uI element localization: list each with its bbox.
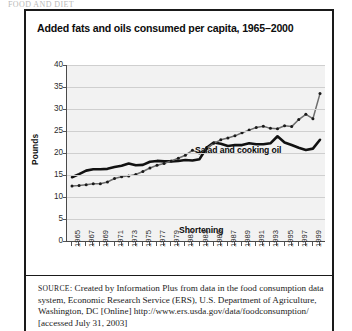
data-point xyxy=(233,134,236,137)
data-point xyxy=(141,170,144,173)
x-axis-tick-label: 1981 xyxy=(187,230,195,247)
gridline xyxy=(67,197,325,198)
x-axis-labels: 1965196719691971197319751977197919811983… xyxy=(66,247,325,277)
data-point xyxy=(78,184,81,187)
data-point xyxy=(156,164,159,167)
source-text: : Created by Information Plus from data … xyxy=(38,283,324,328)
x-axis-tick-mark xyxy=(298,242,299,246)
data-point xyxy=(290,125,293,128)
y-axis-tick-mark xyxy=(63,131,66,132)
data-point xyxy=(99,182,102,185)
data-point xyxy=(113,177,116,180)
source-note: SOURCE: Created by Information Plus from… xyxy=(38,283,326,329)
y-axis-label: Pounds xyxy=(30,134,40,165)
data-point xyxy=(269,127,272,130)
data-point xyxy=(226,137,229,140)
figure-box: Added fats and oils consumed per capita,… xyxy=(24,9,334,331)
chart-area: Pounds 0510152025303540 Salad and cookin… xyxy=(31,47,331,269)
y-axis-tick-mark xyxy=(63,109,66,110)
y-axis-tick-mark xyxy=(63,87,66,88)
x-axis-tick-label: 1973 xyxy=(131,230,139,247)
data-point xyxy=(311,117,314,120)
x-axis-tick-label: 1989 xyxy=(244,230,252,247)
data-point xyxy=(184,154,187,157)
data-point xyxy=(304,113,307,116)
gridline xyxy=(67,65,325,66)
data-point xyxy=(191,149,194,152)
x-axis-tick-mark xyxy=(85,242,86,246)
data-point xyxy=(71,185,74,188)
x-axis-tick-label: 1969 xyxy=(102,230,110,247)
x-axis-tick-label: 1991 xyxy=(258,230,266,247)
y-axis-tick-mark xyxy=(63,65,66,66)
x-axis-tick-label: 1995 xyxy=(287,230,295,247)
data-point xyxy=(276,127,279,130)
x-axis-tick-mark xyxy=(114,242,115,246)
source-label: SOURCE xyxy=(38,284,70,293)
y-axis-tick-label: 30 xyxy=(47,105,63,113)
series-line xyxy=(72,136,320,177)
data-point xyxy=(170,159,173,162)
y-axis-ticks: 0510152025303540 xyxy=(43,47,63,229)
y-axis-tick-label: 10 xyxy=(47,193,63,201)
data-point xyxy=(85,183,88,186)
data-point xyxy=(297,118,300,121)
x-axis-tick-label: 1987 xyxy=(230,230,238,247)
x-axis-tick-label: 1971 xyxy=(117,230,125,247)
y-axis-tick-mark xyxy=(63,153,66,154)
data-point xyxy=(148,166,151,169)
data-point xyxy=(106,181,109,184)
series-label-salad-oil: Salad and cooking oil xyxy=(195,145,281,155)
clipped-header-text: FOOD AND DIET xyxy=(8,0,208,7)
data-point xyxy=(163,162,166,165)
x-axis-tick-mark xyxy=(284,242,285,246)
y-axis-tick-label: 25 xyxy=(47,127,63,135)
x-axis-tick-label: 1977 xyxy=(159,230,167,247)
x-axis-tick-label: 1979 xyxy=(173,230,181,247)
x-axis-tick-label: 1983 xyxy=(202,230,210,247)
x-axis-tick-label: 1965 xyxy=(74,230,82,247)
y-axis-tick-label: 5 xyxy=(47,215,63,223)
x-axis-tick-label: 1975 xyxy=(145,230,153,247)
data-point xyxy=(319,92,322,95)
y-axis-tick-mark xyxy=(63,197,66,198)
data-point xyxy=(283,124,286,127)
x-axis-tick-mark xyxy=(128,242,129,246)
y-axis-tick-mark xyxy=(63,219,66,220)
data-point xyxy=(255,126,258,129)
y-axis-tick-label: 20 xyxy=(47,149,63,157)
y-axis-tick-label: 0 xyxy=(47,237,63,245)
y-axis-tick-label: 15 xyxy=(47,171,63,179)
x-axis-tick-mark xyxy=(241,242,242,246)
x-axis-tick-mark xyxy=(312,242,313,246)
y-axis-tick-mark xyxy=(63,241,66,242)
y-axis-tick-label: 40 xyxy=(47,61,63,69)
x-axis-tick-label: 1993 xyxy=(272,230,280,247)
x-axis-tick-mark xyxy=(142,242,143,246)
x-axis-tick-label: 1967 xyxy=(88,230,96,247)
data-point xyxy=(219,138,222,141)
x-axis-tick-mark xyxy=(156,242,157,246)
gridline xyxy=(67,87,325,88)
y-axis-tick-mark xyxy=(63,175,66,176)
source-divider xyxy=(26,275,332,276)
x-axis-tick-mark xyxy=(199,242,200,246)
x-axis-tick-label: 1999 xyxy=(315,230,323,247)
plot-area: Salad and cooking oil Shortening xyxy=(66,65,325,242)
data-point xyxy=(262,125,265,128)
x-axis-tick-label: 1997 xyxy=(301,230,309,247)
gridline xyxy=(67,219,325,220)
gridline xyxy=(67,131,325,132)
y-axis-tick-label: 35 xyxy=(47,83,63,91)
gridline xyxy=(67,109,325,110)
x-axis-tick-mark xyxy=(213,242,214,246)
x-axis-tick-mark xyxy=(71,242,72,246)
data-point xyxy=(177,157,180,160)
data-point xyxy=(92,182,95,185)
gridline xyxy=(67,175,325,176)
chart-title: Added fats and oils consumed per capita,… xyxy=(37,22,327,34)
x-axis-tick-mark xyxy=(227,242,228,246)
x-axis-tick-label: 1985 xyxy=(216,230,224,247)
